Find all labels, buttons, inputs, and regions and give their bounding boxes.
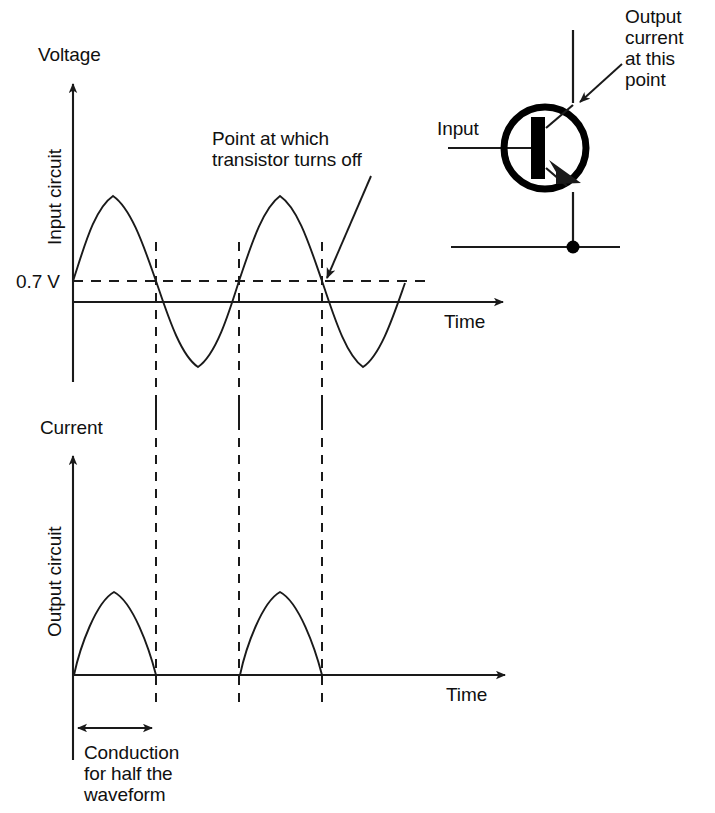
turn-off-annotation-line1: Point at which	[212, 128, 329, 149]
conduction-annotation-line3: waveform	[84, 784, 166, 805]
top-chart-x-axis-label: Time	[444, 311, 485, 332]
bottom-chart-x-axis-label: Time	[446, 684, 487, 705]
conduction-annotation-line2: for half the	[84, 763, 173, 784]
transistor-base-bar	[531, 117, 545, 179]
bottom-chart-y-axis-label: Current	[40, 417, 103, 438]
output-note-line3: at this	[625, 48, 675, 69]
output-note-line4: point	[625, 69, 666, 90]
top-chart-y-axis-label: Voltage	[38, 44, 101, 65]
turn-off-annotation-arrow	[327, 176, 371, 278]
output-note-line1: Output	[625, 6, 681, 27]
bottom-chart-y-side-label: Output circuit	[44, 526, 65, 637]
junction-dot	[567, 241, 580, 254]
output-current-annotation-arrow	[580, 64, 622, 102]
transistor-waveform-figure: Voltage Input circuit 0.7 V Time Point a…	[0, 0, 715, 813]
output-note-line2: current	[625, 27, 683, 48]
bottom-chart-group	[73, 404, 505, 760]
output-current-pulse-2	[240, 592, 322, 675]
input-label: Input	[437, 118, 479, 139]
threshold-value-label: 0.7 V	[16, 271, 60, 292]
transistor-circuit-group	[448, 30, 622, 254]
top-chart-y-side-label: Input circuit	[44, 149, 65, 245]
output-current-pulse-1	[74, 592, 156, 675]
turn-off-annotation-line2: transistor turns off	[212, 149, 362, 170]
conduction-annotation-line1: Conduction	[84, 742, 179, 763]
figure-canvas	[0, 0, 715, 813]
